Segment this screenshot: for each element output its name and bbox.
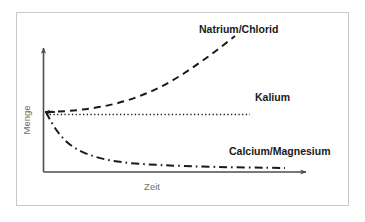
chart-canvas: Natrium/Chlorid Kalium Calcium/Magnesium… xyxy=(0,0,365,222)
label-calcium-magnesium: Calcium/Magnesium xyxy=(229,145,331,157)
series-line-calcium-magnesium xyxy=(46,112,285,168)
label-natrium-chlorid: Natrium/Chlorid xyxy=(199,23,278,35)
x-axis-label: Zeit xyxy=(144,181,160,192)
label-kalium: Kalium xyxy=(255,91,290,103)
series-line-natrium-chlorid xyxy=(46,36,235,112)
figure-root: Natrium/Chlorid Kalium Calcium/Magnesium… xyxy=(0,0,365,222)
y-axis-label: Menge xyxy=(21,105,32,134)
